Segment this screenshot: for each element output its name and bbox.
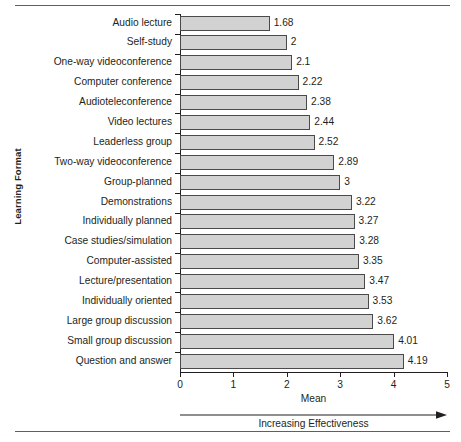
bar-value-label: 2.44	[314, 116, 334, 128]
bar-value-label: 3.47	[369, 275, 389, 287]
bar	[180, 294, 369, 309]
bar-value-label: 3.53	[373, 295, 393, 307]
x-axis-tick-label: 5	[432, 379, 461, 390]
bar-value-label: 1.68	[274, 17, 294, 29]
bar-value-label: 4.01	[398, 335, 418, 347]
bar	[180, 95, 307, 110]
increasing-effectiveness-arrow	[180, 406, 447, 416]
bar-value-label: 2.89	[338, 156, 358, 168]
bar-value-label: 2	[291, 36, 297, 48]
category-label: Computer conference	[74, 76, 172, 88]
category-label: Demonstrations	[101, 196, 172, 208]
category-label: Audioteleconference	[79, 96, 172, 108]
category-label: Group-planned	[104, 176, 172, 188]
bottom-divider-rule	[15, 431, 450, 432]
bar-value-label: 3.22	[356, 196, 376, 208]
bar	[180, 16, 270, 31]
bar	[180, 354, 404, 369]
plot-area: Audio lecture1.68Self-study2One-way vide…	[180, 14, 447, 372]
bar	[180, 234, 355, 249]
bar	[180, 175, 340, 190]
category-label: Individually planned	[83, 215, 173, 227]
category-label: Individually oriented	[82, 295, 172, 307]
category-label: Question and answer	[76, 355, 172, 367]
increasing-effectiveness-caption: Increasing Effectiveness	[180, 418, 447, 429]
x-axis-tick	[447, 372, 448, 377]
x-axis-tick	[180, 372, 181, 377]
bar-value-label: 2.38	[311, 96, 331, 108]
x-axis-tick	[287, 372, 288, 377]
x-axis-tick-label: 2	[272, 379, 302, 390]
x-axis-line	[180, 372, 447, 373]
bar	[180, 75, 299, 90]
category-label: Self-study	[127, 36, 172, 48]
top-divider-rule	[15, 5, 450, 6]
bar	[180, 314, 373, 329]
category-label: One-way videoconference	[54, 56, 172, 68]
bar-value-label: 2.1	[296, 56, 310, 68]
category-label: Leaderless group	[93, 136, 172, 148]
bar-value-label: 3.35	[363, 255, 383, 267]
x-axis-title: Mean	[180, 393, 447, 404]
bar	[180, 35, 287, 50]
category-label: Large group discussion	[67, 315, 172, 327]
bar	[180, 274, 365, 289]
bar	[180, 55, 292, 70]
bar	[180, 115, 310, 130]
category-label: Lecture/presentation	[79, 275, 172, 287]
x-axis-tick	[394, 372, 395, 377]
category-label: Computer-assisted	[87, 255, 173, 267]
bar	[180, 155, 334, 170]
bar-value-label: 4.19	[408, 355, 428, 367]
bar	[180, 135, 315, 150]
x-axis-tick-label: 4	[379, 379, 409, 390]
bar-value-label: 3.28	[359, 235, 379, 247]
bar	[180, 334, 394, 349]
bar	[180, 195, 352, 210]
category-label: Small group discussion	[67, 335, 172, 347]
bar	[180, 254, 359, 269]
bar	[180, 214, 355, 229]
x-axis-tick-label: 1	[218, 379, 248, 390]
figure-container: Learning Format Audio lecture1.68Self-st…	[0, 0, 461, 442]
bar-value-label: 3.62	[377, 315, 397, 327]
x-axis-tick	[233, 372, 234, 377]
category-label: Two-way videoconference	[54, 156, 172, 168]
category-label: Video lectures	[108, 116, 172, 128]
bar-value-label: 2.52	[319, 136, 339, 148]
bar-value-label: 3	[344, 176, 350, 188]
x-axis-tick-label: 3	[325, 379, 355, 390]
bar-value-label: 2.22	[303, 76, 323, 88]
bar-value-label: 3.27	[359, 215, 379, 227]
category-label: Case studies/simulation	[64, 235, 172, 247]
x-axis-tick	[340, 372, 341, 377]
category-label: Audio lecture	[113, 17, 172, 29]
y-axis-title: Learning Format	[12, 117, 23, 257]
x-axis-tick-label: 0	[165, 379, 195, 390]
